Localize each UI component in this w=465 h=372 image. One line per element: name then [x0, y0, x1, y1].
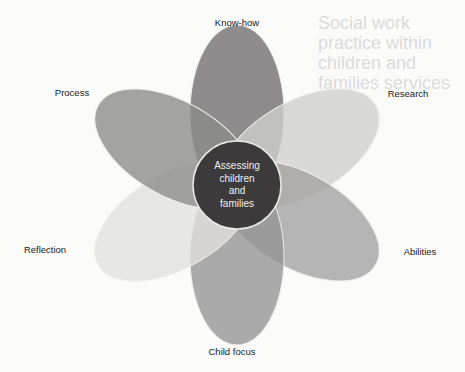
center-label: Assessing children and families [197, 160, 277, 210]
label-know-how: Know-how [215, 17, 259, 28]
center-label-line: and [197, 185, 277, 198]
label-research: Research [388, 88, 429, 99]
label-reflection: Reflection [24, 244, 66, 255]
center-label-line: Assessing [197, 160, 277, 173]
label-abilities: Abilities [404, 246, 437, 257]
center-label-line: families [197, 198, 277, 211]
label-process: Process [55, 87, 89, 98]
center-label-line: children [197, 173, 277, 186]
label-child-focus: Child focus [209, 346, 256, 357]
